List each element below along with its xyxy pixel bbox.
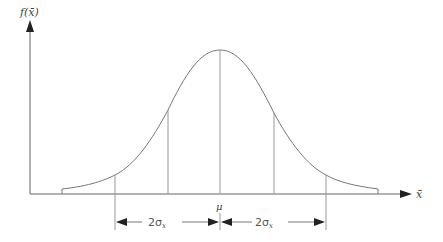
x-axis-label: x̄ [416,188,423,201]
right-span-left-arrow-icon [221,218,232,226]
y-axis-label: f(x̄) [19,6,39,19]
right-span-right-arrow-icon [314,218,325,226]
x-axis-arrow-icon [400,190,412,198]
left-span-label: 2σx [148,216,166,230]
y-axis-arrow-icon [26,20,34,32]
mean-label: μ [216,201,223,212]
right-span-label: 2σx [255,216,273,230]
left-span-right-arrow-icon [208,218,219,226]
normal-distribution-diagram: f(x̄) x̄ μ 2σx 2σx [0,0,443,242]
left-span-left-arrow-icon [116,218,127,226]
